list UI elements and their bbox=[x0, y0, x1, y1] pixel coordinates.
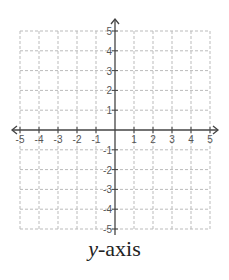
y-tick-label: -1 bbox=[103, 145, 112, 156]
x-tick-label: -3 bbox=[54, 134, 63, 145]
caption-text: -axis bbox=[98, 236, 141, 261]
y-tick-label: 3 bbox=[106, 66, 112, 77]
x-tick-label: 2 bbox=[150, 134, 156, 145]
y-tick-label: -4 bbox=[103, 204, 112, 215]
y-tick-label: 1 bbox=[106, 105, 112, 116]
x-tick-label: 5 bbox=[207, 134, 213, 145]
y-tick-label: -2 bbox=[103, 165, 112, 176]
coordinate-plane: -5-4-3-2-112345-5-4-3-2-112345 bbox=[0, 0, 229, 235]
x-tick-label: 4 bbox=[188, 134, 194, 145]
x-tick-label: -4 bbox=[35, 134, 44, 145]
caption-variable: y bbox=[88, 236, 98, 261]
x-tick-label: -1 bbox=[92, 134, 101, 145]
x-tick-label: -2 bbox=[73, 134, 82, 145]
caption: y-axis bbox=[0, 236, 229, 262]
y-tick-label: 5 bbox=[106, 26, 112, 37]
y-tick-label: -5 bbox=[103, 224, 112, 235]
y-tick-label: 4 bbox=[106, 46, 112, 57]
x-tick-label: 3 bbox=[169, 134, 175, 145]
y-tick-label: 2 bbox=[106, 85, 112, 96]
x-tick-label: -5 bbox=[16, 134, 25, 145]
x-tick-label: 1 bbox=[131, 134, 137, 145]
y-tick-label: -3 bbox=[103, 184, 112, 195]
